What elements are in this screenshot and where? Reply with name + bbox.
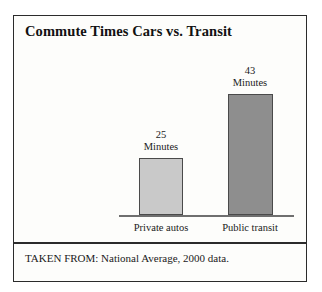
value-number-public-transit: 43 <box>205 65 295 77</box>
category-label-private-autos: Private autos <box>111 222 211 233</box>
bar-private-autos <box>139 158 183 215</box>
value-label-public-transit: 43 Minutes <box>205 65 295 90</box>
category-label-public-transit: Public transit <box>200 222 300 233</box>
value-number-private-autos: 25 <box>116 129 206 141</box>
footer-divider <box>14 242 306 244</box>
x-axis-baseline <box>119 215 294 217</box>
source-note: TAKEN FROM: National Average, 2000 data. <box>25 252 229 264</box>
value-unit-public-transit: Minutes <box>205 77 295 89</box>
value-unit-private-autos: Minutes <box>116 141 206 153</box>
bar-public-transit <box>228 94 273 215</box>
value-label-private-autos: 25 Minutes <box>116 129 206 154</box>
chart-figure-frame: Commute Times Cars vs. Transit 25 Minute… <box>13 15 307 282</box>
